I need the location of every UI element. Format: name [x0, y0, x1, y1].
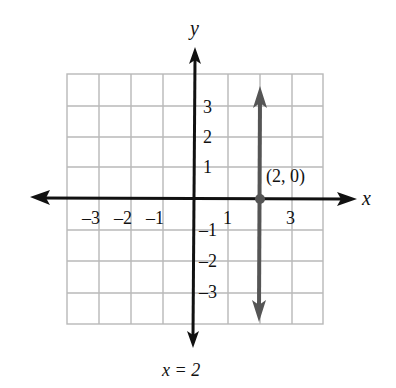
- point-label: (2, 0): [266, 167, 305, 185]
- x-tick-label: –1: [146, 209, 164, 227]
- x-tick-label: 1: [223, 209, 232, 227]
- y-tick-label: 1: [203, 158, 212, 176]
- y-tick-label: –1: [199, 221, 217, 239]
- x-axis-label: x: [362, 188, 371, 208]
- y-tick-label: –3: [199, 283, 217, 301]
- coordinate-plane: [0, 0, 396, 388]
- y-tick-label: 3: [203, 98, 212, 116]
- x-tick-label: 3: [286, 209, 295, 227]
- x-tick-label: –3: [82, 209, 100, 227]
- x-tick-label: –2: [114, 209, 132, 227]
- y-tick-label: –2: [199, 252, 217, 270]
- y-tick-label: 2: [203, 128, 212, 146]
- equation-label: x = 2: [162, 361, 200, 379]
- y-axis-label: y: [190, 18, 199, 38]
- line-x-equals-2: [252, 86, 267, 322]
- graph-figure: y x (2, 0) x = 2 –3 –2 –1 1 3 3 2 1 –1 –…: [0, 0, 396, 388]
